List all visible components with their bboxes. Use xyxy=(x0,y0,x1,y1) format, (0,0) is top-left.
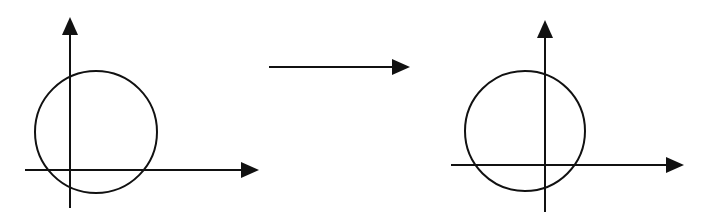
translation-diagram xyxy=(0,0,705,223)
after-panel xyxy=(451,20,684,212)
arrowhead-icon xyxy=(666,157,684,173)
transition-arrow xyxy=(269,59,410,75)
circle xyxy=(465,71,585,191)
arrowhead-icon xyxy=(392,59,410,75)
circle xyxy=(35,71,157,193)
arrowhead-icon xyxy=(62,17,78,35)
before-panel xyxy=(25,17,259,208)
arrowhead-icon xyxy=(241,162,259,178)
arrowhead-icon xyxy=(537,20,553,38)
